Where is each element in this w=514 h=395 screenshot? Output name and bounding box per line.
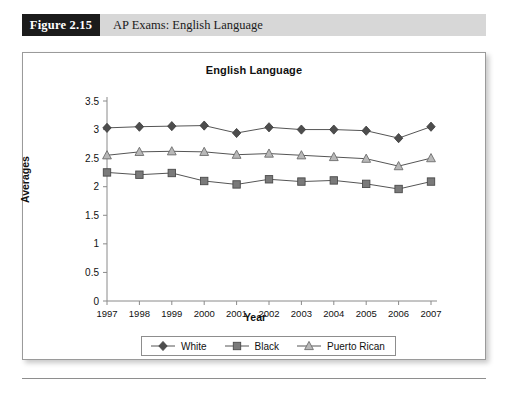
page-divider-rule [22, 378, 486, 379]
figure-caption-bar: Figure 2.15 AP Exams: English Language [22, 14, 486, 36]
legend-item-black[interactable]: Black [224, 340, 279, 352]
legend-item-white[interactable]: White [150, 340, 207, 352]
legend-item-puerto-rican[interactable]: Puerto Rican [296, 340, 385, 352]
figure-number-tag: Figure 2.15 [22, 14, 100, 36]
svg-text:3: 3 [93, 124, 99, 135]
figure-frame: English Language 00.511.522.533.51997199… [22, 52, 486, 360]
chart-legend: WhiteBlackPuerto Rican [141, 336, 396, 356]
square-marker-icon [224, 340, 250, 352]
legend-label: White [181, 341, 207, 352]
svg-text:0: 0 [93, 296, 99, 307]
legend-label: Black [255, 341, 279, 352]
chart-plot-area: 00.511.522.533.5199719981999200020012002… [23, 53, 487, 361]
svg-text:2.5: 2.5 [85, 153, 99, 164]
x-axis-title: Year [23, 311, 487, 323]
legend-label: Puerto Rican [327, 341, 385, 352]
svg-text:3.5: 3.5 [85, 96, 99, 107]
figure-caption-title: AP Exams: English Language [100, 14, 263, 36]
svg-text:1: 1 [93, 238, 99, 249]
y-axis-title: Averages [19, 156, 31, 203]
diamond-marker-icon [150, 340, 176, 352]
svg-text:0.5: 0.5 [85, 267, 99, 278]
triangle-marker-icon [296, 340, 322, 352]
svg-text:2: 2 [93, 181, 99, 192]
svg-text:1.5: 1.5 [85, 210, 99, 221]
